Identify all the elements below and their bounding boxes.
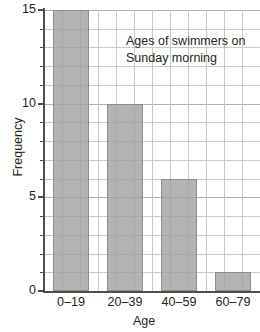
y-tick-label: 10 [6, 97, 36, 110]
bar [53, 10, 89, 291]
y-tick-label: 5 [6, 190, 36, 203]
y-tick-mark [38, 196, 44, 198]
y-tick-mark-minor [40, 216, 44, 217]
y-tick-mark-minor [40, 29, 44, 30]
x-axis-title: Age [44, 314, 244, 328]
y-tick-mark [38, 9, 44, 11]
y-tick-mark [38, 103, 44, 105]
x-axis-line [43, 291, 260, 293]
bar [215, 272, 251, 291]
y-tick-mark-minor [40, 122, 44, 123]
bar [161, 179, 197, 291]
y-tick-mark-minor [40, 179, 44, 180]
y-tick-mark [38, 290, 44, 292]
y-tick-mark-minor [40, 66, 44, 67]
y-tick-mark-minor [40, 47, 44, 48]
y-tick-mark-minor [40, 254, 44, 255]
y-tick-mark-minor [40, 85, 44, 86]
gridline-vertical [98, 10, 99, 291]
histogram-chart: Frequency 051015 0–1920–3940–5960–79 Age… [0, 0, 260, 332]
y-tick-mark-minor [40, 235, 44, 236]
y-tick-mark-minor [40, 160, 44, 161]
x-tick-label: 60–79 [197, 295, 260, 309]
chart-annotation: Ages of swimmers on Sunday morning [126, 33, 245, 67]
y-tick-mark-minor [40, 272, 44, 273]
bar [107, 104, 143, 291]
y-tick-label: 0 [6, 284, 36, 297]
y-axis-line [43, 8, 45, 293]
y-tick-mark-minor [40, 141, 44, 142]
y-tick-label: 15 [6, 3, 36, 16]
